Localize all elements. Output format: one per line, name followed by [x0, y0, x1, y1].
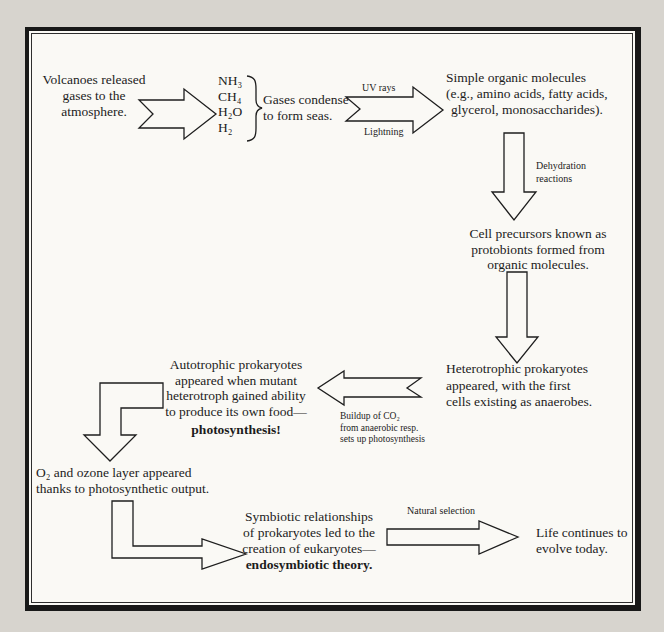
node-gases-condense: Gases condense to form seas. — [263, 92, 349, 124]
node-heterotrophs-line: appeared, with the first — [446, 378, 592, 395]
label-natural-selection: Natural selection — [407, 505, 475, 517]
node-gas-formulas: NH₃ CH₄ H₂O H₂ — [218, 73, 242, 136]
node-gases-condense-line: Gases condense — [263, 92, 349, 108]
label-dehydration-line: Dehydration — [536, 160, 586, 173]
node-life-line: evolve today. — [536, 541, 627, 557]
node-heterotrophs: Heterotrophic prokaryotes appeared, with… — [446, 361, 592, 411]
node-autotrophs-line: to produce its own food— — [149, 404, 323, 420]
node-life: Life continues to evolve today. — [536, 525, 627, 557]
node-autotrophs: Autotrophic prokaryotes appeared when mu… — [149, 357, 323, 438]
node-life-line: Life continues to — [536, 525, 627, 541]
node-protobionts-line: organic molecules. — [452, 257, 624, 273]
node-volcanoes-line: gases to the — [34, 88, 154, 104]
label-lightning: Lightning — [364, 126, 403, 138]
node-oxygen-line: O₂ and ozone layer appeared — [36, 465, 209, 481]
label-co2-buildup: Buildup of CO₂ from anaerobic resp. sets… — [340, 411, 425, 446]
node-autotrophs-emphasis: photosynthesis! — [149, 422, 323, 438]
node-protobionts-line: Cell precursors known as — [452, 226, 624, 242]
gas-formula: H₂O — [218, 104, 242, 120]
node-simple-organic: Simple organic molecules (e.g., amino ac… — [446, 70, 608, 118]
label-dehydration-line: reactions — [536, 173, 586, 186]
node-simple-organic-line: glycerol, monosaccharides). — [446, 102, 608, 118]
node-simple-organic-line: (e.g., amino acids, fatty acids, — [446, 86, 608, 102]
node-symbiosis: Symbiotic relationships of prokaryotes l… — [242, 509, 376, 573]
node-oxygen-line: thanks to photosynthetic output. — [36, 481, 209, 497]
node-volcanoes: Volcanoes released gases to the atmosphe… — [34, 72, 154, 120]
label-co2-buildup-line: Buildup of CO₂ — [340, 411, 425, 423]
node-protobionts: Cell precursors known as protobionts for… — [452, 226, 624, 273]
node-autotrophs-line: Autotrophic prokaryotes — [149, 357, 323, 373]
gas-formula: H₂ — [218, 120, 242, 136]
node-gases-condense-line: to form seas. — [263, 108, 349, 124]
node-protobionts-line: protobionts formed from — [452, 242, 624, 258]
node-autotrophs-line: appeared when mutant — [149, 373, 323, 389]
node-simple-organic-line: Simple organic molecules — [446, 70, 608, 86]
gas-formula: NH₃ — [218, 73, 242, 89]
label-co2-buildup-line: sets up photosynthesis — [340, 434, 425, 446]
label-dehydration: Dehydration reactions — [536, 160, 586, 185]
node-autotrophs-line: heterotroph gained ability — [149, 388, 323, 404]
label-co2-buildup-line: from anaerobic resp. — [340, 423, 425, 435]
node-volcanoes-line: Volcanoes released — [34, 72, 154, 88]
node-heterotrophs-line: Heterotrophic prokaryotes — [446, 361, 592, 378]
node-heterotrophs-line: cells existing as anaerobes. — [446, 394, 592, 411]
label-uv-rays: UV rays — [362, 82, 395, 94]
gas-formula: CH₄ — [218, 89, 242, 105]
node-volcanoes-line: atmosphere. — [34, 104, 154, 120]
node-symbiosis-emphasis: endosymbiotic theory. — [242, 557, 376, 573]
node-symbiosis-line: of prokaryotes led to the — [242, 525, 376, 541]
node-symbiosis-line: Symbiotic relationships — [242, 509, 376, 525]
node-oxygen: O₂ and ozone layer appeared thanks to ph… — [36, 465, 209, 497]
node-symbiosis-line: creation of eukaryotes— — [242, 541, 376, 557]
